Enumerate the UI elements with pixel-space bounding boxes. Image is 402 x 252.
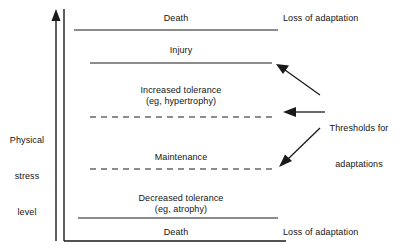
band-sublabel-decreased-tolerance: (eg, atrophy) xyxy=(155,204,207,215)
band-label-maintenance: Maintenance xyxy=(155,152,208,163)
y-axis-title-line-3: level xyxy=(10,206,44,218)
band-label-injury: Injury xyxy=(170,45,193,56)
band-label-decreased-tolerance: Decreased tolerance xyxy=(139,193,224,204)
band-label-death-bottom: Death xyxy=(164,227,189,238)
thresholds-callout-line-2: adaptations xyxy=(330,158,389,170)
y-axis-title-line-1: Physical xyxy=(10,134,44,146)
band-label-death-top: Death xyxy=(164,13,189,24)
note-loss-of-adaptation-top: Loss of adaptation xyxy=(283,13,358,24)
band-label-increased-tolerance: Increased tolerance xyxy=(141,85,222,96)
physical-stress-theory-diagram: Physical stress level Death Loss of adap… xyxy=(0,0,402,252)
threshold-arrow-increased-tolerance-icon xyxy=(283,107,325,117)
thresholds-callout-line-1: Thresholds for xyxy=(330,122,389,134)
y-axis-title: Physical stress level xyxy=(10,110,44,242)
threshold-arrow-injury-icon xyxy=(276,64,320,95)
threshold-arrow-maintenance-icon xyxy=(279,128,320,167)
band-sublabel-increased-tolerance: (eg, hypertrophy) xyxy=(146,96,216,107)
y-axis-arrow-icon xyxy=(52,9,61,241)
y-axis-title-line-2: stress xyxy=(10,170,44,182)
thresholds-callout-label: Thresholds for adaptations xyxy=(330,98,389,194)
note-loss-of-adaptation-bottom: Loss of adaptation xyxy=(283,227,358,238)
